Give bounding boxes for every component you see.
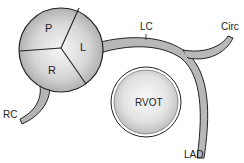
label-posterior-cusp: P xyxy=(45,22,52,34)
label-left-coronary: LC xyxy=(140,21,153,32)
label-circumflex: Circ xyxy=(221,21,239,32)
aortic-root xyxy=(19,8,103,92)
label-right-cusp: R xyxy=(48,64,56,76)
right-coronary-artery xyxy=(20,86,50,124)
label-right-coronary: RC xyxy=(3,109,17,120)
label-left-cusp: L xyxy=(80,41,86,53)
label-rvot: RVOT xyxy=(135,97,163,108)
label-lad: LAD xyxy=(184,149,203,160)
coronary-anatomy-diagram: P L R LC Circ LAD RC RVOT xyxy=(0,0,244,163)
